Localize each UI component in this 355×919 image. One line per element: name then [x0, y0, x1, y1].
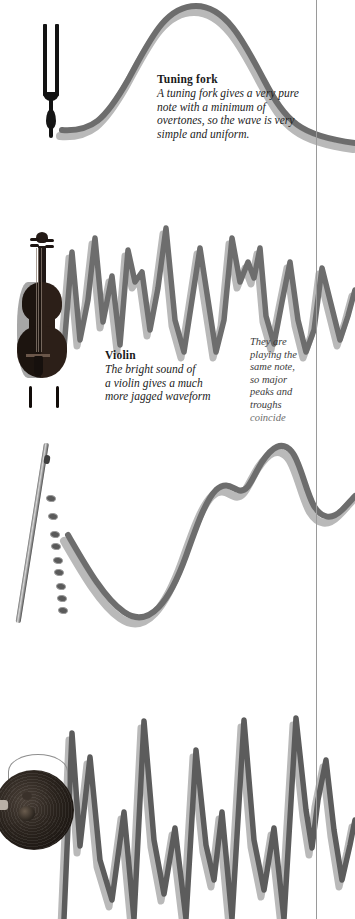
- caption-line: peaks and: [250, 386, 297, 399]
- caption-line: troughs: [250, 399, 297, 412]
- caption-line: overtones, so the wave is very: [157, 114, 299, 128]
- caption-line: note with a minimum of: [157, 101, 299, 115]
- caption-violin-title: Violin: [105, 349, 211, 362]
- caption-line: simple and uniform.: [157, 128, 299, 142]
- caption-line: A tuning fork gives a very pure: [157, 87, 299, 101]
- gong-icon: [0, 770, 80, 856]
- page-gutter-rule: [316, 0, 317, 919]
- caption-line: same note,: [250, 361, 297, 374]
- caption-same-note-body: They are playing the same note, so major…: [250, 336, 297, 424]
- tuning-fork-icon: [38, 24, 66, 139]
- caption-line: coincide: [250, 412, 297, 425]
- caption-line: playing the: [250, 349, 297, 362]
- caption-tuning-fork: Tuning fork A tuning fork gives a very p…: [157, 73, 299, 141]
- caption-line: The bright sound of: [105, 363, 211, 377]
- violin-icon: [12, 232, 70, 382]
- illustration-page: Tuning fork A tuning fork gives a very p…: [0, 0, 355, 919]
- caption-line: so major: [250, 374, 297, 387]
- caption-same-note: They are playing the same note, so major…: [250, 336, 297, 424]
- caption-violin: Violin The bright sound of a violin give…: [105, 349, 211, 404]
- caption-violin-body: The bright sound of a violin gives a muc…: [105, 363, 211, 404]
- caption-tuning-fork-body: A tuning fork gives a very pure note wit…: [157, 87, 299, 141]
- flute-icon: [24, 443, 70, 625]
- caption-tuning-fork-title: Tuning fork: [157, 73, 299, 86]
- caption-line: more jagged waveform: [105, 390, 211, 404]
- caption-line: They are: [250, 336, 297, 349]
- caption-line: a violin gives a much: [105, 377, 211, 391]
